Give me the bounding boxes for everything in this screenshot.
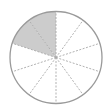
slice-divider-line (29, 58, 56, 95)
slice-divider-line (56, 58, 83, 95)
slice-divider-line (56, 20, 83, 57)
slice-divider-line (56, 43, 100, 57)
fraction-circle-diagram (0, 0, 112, 110)
slice-divider-line (56, 58, 100, 72)
slice-divider-line (12, 58, 56, 72)
